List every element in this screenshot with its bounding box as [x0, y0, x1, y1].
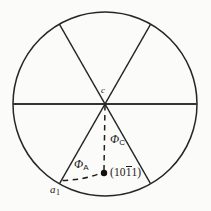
c-axis-label: c	[101, 86, 105, 95]
angle-phi-a-label: ΦA	[74, 158, 88, 170]
projection-svg-canvas	[0, 0, 211, 211]
a1-axis-label: a1	[50, 184, 60, 195]
phi-c-symbol: Φ	[110, 132, 119, 146]
phi-a-symbol: Φ	[74, 157, 83, 171]
phi-c-dashed-radius	[104, 105, 105, 170]
angle-phi-c-label: ΦC	[110, 133, 125, 145]
phi-a-subscript: A	[83, 163, 88, 172]
miller-index-suffix: 1)	[132, 166, 142, 178]
a1-axis-letter: a	[50, 183, 56, 195]
miller-index-label: (1011)	[110, 167, 141, 179]
miller-index-prefix: (10	[110, 166, 126, 178]
pole-dot-10-1bar-1	[101, 170, 107, 176]
stereographic-projection-figure: c a1 ΦA ΦC (1011)	[0, 0, 211, 211]
a1-axis-subscript: 1	[56, 188, 60, 197]
phi-c-subscript: C	[119, 138, 125, 147]
miller-index-bar-digit: 1	[126, 167, 132, 179]
phi-a-dashed-arc	[63, 173, 102, 181]
